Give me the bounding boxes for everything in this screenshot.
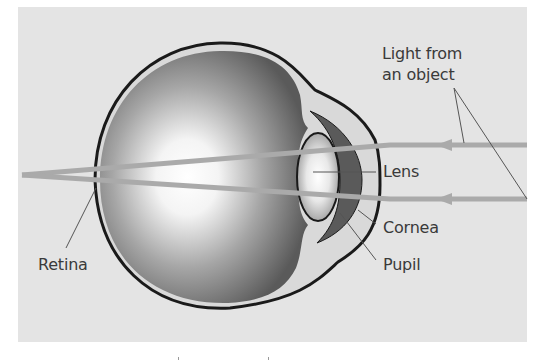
label-light-line-1: Light from [382,43,462,64]
leader-retina [66,188,96,248]
label-lens: Lens [383,162,419,182]
label-retina: Retina [38,255,88,275]
arrowhead-lower-icon [436,193,452,205]
lens [297,133,339,221]
label-cornea: Cornea [383,218,439,238]
label-light-line-2: an object [382,64,462,85]
eye-diagram [0,0,546,362]
bottom-mark-2 [268,357,269,360]
bottom-mark-1 [178,357,179,360]
label-light-from-object: Light from an object [382,43,462,85]
arrowhead-upper-icon [436,139,452,151]
label-pupil: Pupil [383,255,421,275]
